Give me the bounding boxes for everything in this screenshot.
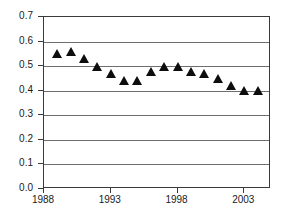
gridline	[44, 164, 269, 165]
y-tick-label: 0.1	[19, 158, 33, 168]
data-point-marker	[146, 67, 156, 76]
gridline	[44, 140, 269, 141]
gridline	[44, 91, 269, 92]
y-tick-label: 0.6	[19, 36, 33, 46]
data-point-marker	[173, 62, 183, 71]
scatter-chart: 0.00.10.20.30.40.50.60.7 198819931998200…	[0, 0, 290, 210]
data-point-marker	[66, 47, 76, 56]
y-tick-label: 0.5	[19, 60, 33, 70]
gridline	[44, 42, 269, 43]
data-point-marker	[199, 69, 209, 78]
y-tick-label: 0.7	[19, 11, 33, 21]
plot-area	[43, 16, 270, 188]
x-tick-label: 1993	[99, 195, 121, 205]
data-point-marker	[132, 76, 142, 85]
y-axis: 0.00.10.20.30.40.50.60.7	[0, 0, 43, 210]
y-tick-label: 0.3	[19, 109, 33, 119]
x-tick-label: 2003	[232, 195, 254, 205]
data-point-marker	[186, 67, 196, 76]
x-tick-mark	[43, 188, 44, 193]
data-point-marker	[226, 81, 236, 90]
data-point-marker	[92, 62, 102, 71]
gridline	[44, 115, 269, 116]
data-point-marker	[119, 76, 129, 85]
data-point-marker	[79, 54, 89, 63]
data-point-marker	[253, 86, 263, 95]
data-point-marker	[213, 74, 223, 83]
y-tick-label: 0.2	[19, 134, 33, 144]
x-axis: 1988199319982003	[0, 188, 290, 210]
data-point-marker	[159, 62, 169, 71]
data-point-marker	[52, 49, 62, 58]
x-tick-mark	[177, 188, 178, 193]
x-tick-label: 1998	[165, 195, 187, 205]
gridline	[44, 66, 269, 67]
x-tick-mark	[110, 188, 111, 193]
data-point-marker	[239, 86, 249, 95]
x-tick-label: 1988	[32, 195, 54, 205]
y-tick-label: 0.4	[19, 85, 33, 95]
x-tick-mark	[243, 188, 244, 193]
data-point-marker	[106, 69, 116, 78]
